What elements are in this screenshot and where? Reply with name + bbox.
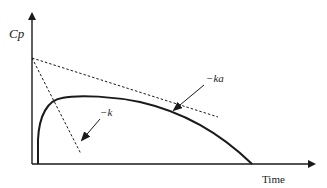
k-label: −k [100, 106, 113, 118]
pk-diagram: Cp Time −ka −k [0, 0, 327, 188]
ka-label: −ka [206, 72, 224, 84]
dashed-steep-line [32, 58, 81, 154]
dashed-shallow-line [32, 58, 218, 117]
ka-arrow [174, 85, 204, 110]
x-axis-label: Time [262, 173, 285, 185]
k-arrow [82, 119, 100, 140]
y-axis-label: Cp [9, 26, 25, 41]
concentration-curve [38, 96, 252, 164]
diagram-canvas: Cp Time −ka −k [0, 0, 327, 188]
